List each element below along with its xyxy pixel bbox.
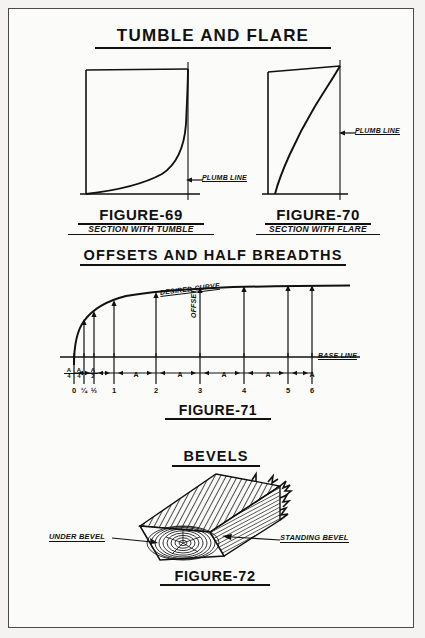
station-label-8: 6 [307,386,317,395]
spacing-label-a-3: A [263,371,273,378]
station-label-4: 2 [151,386,161,395]
spacing-label-a-2: A [219,371,229,378]
figure-72-drawing [128,468,298,568]
station-label-3: 1 [109,386,119,395]
standing-bevel-label: STANDING BEVEL [280,533,349,543]
heading-bevels: BEVELS [172,448,260,467]
spacing-fraction-1: A 4 [74,368,84,379]
station-label-2: ½ [89,386,99,395]
figure-70-subcaption: SECTION WITH FLARE [256,224,380,235]
figure-69-plumb-line-label: PLUMB LINE [202,174,247,182]
figure-72-caption: FIGURE-72 [160,568,270,586]
figure-70-plumb-arrow [339,129,357,137]
figure-69-subcaption: SECTION WITH TUMBLE [68,224,214,235]
spacing-fraction-2: A 2 [88,368,98,379]
spacing-fraction-0: A 4 [64,368,74,379]
figure-69-caption: FIGURE-69 [78,206,204,225]
under-bevel-arrow [112,534,160,544]
figure-71-drawing [60,285,370,385]
heading-tumble-and-flare: TUMBLE AND FLARE [95,26,331,49]
figure-70-plumb-line-label: PLUMB LINE [355,127,400,135]
spacing-label-a-0: A [131,371,141,378]
station-label-7: 5 [283,386,293,395]
standing-bevel-arrow [222,532,280,542]
base-line-label: BASE LINE [318,352,357,360]
plate-page: TUMBLE AND FLARE PLUMB LINE FIGURE-69 SE… [0,0,425,638]
spacing-fraction-0-denominator: 4 [64,373,74,379]
offset-label: OFFSET [190,289,197,318]
station-label-5: 3 [195,386,205,395]
heading-offsets-and-half-breadths: OFFSETS AND HALF BREADTHS [80,247,346,266]
figure-70-caption: FIGURE-70 [265,206,371,225]
station-label-0: 0 [69,386,79,395]
under-bevel-label: UNDER BEVEL [49,532,105,542]
spacing-label-a-4: A [307,371,317,378]
station-label-1: ¼ [79,386,89,395]
spacing-fraction-1-denominator: 4 [74,373,84,379]
figure-69-plumb-arrow [186,176,204,184]
spacing-label-a-1: A [175,371,185,378]
figure-71-caption: FIGURE-71 [165,402,271,420]
spacing-fraction-2-denominator: 2 [88,373,98,379]
station-label-6: 4 [239,386,249,395]
